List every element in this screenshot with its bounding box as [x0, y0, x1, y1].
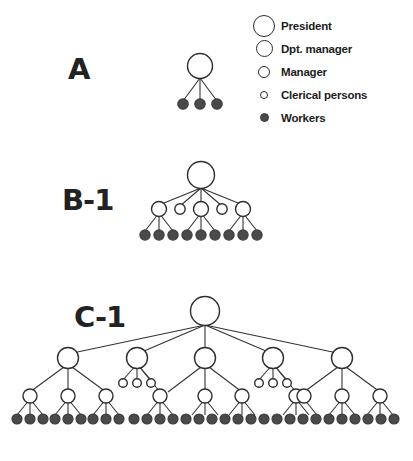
node-worker: [88, 414, 98, 424]
node-dpt-manager: [58, 348, 79, 369]
node-dpt-manager: [127, 348, 148, 369]
node-worker: [142, 414, 152, 424]
node-worker: [363, 414, 373, 424]
node-worker: [259, 414, 269, 424]
node-worker: [182, 230, 192, 240]
node-worker: [195, 99, 205, 109]
legend-label-dpt-manager: Dpt. manager: [281, 43, 352, 55]
node-worker: [298, 414, 308, 424]
node-manager: [61, 389, 75, 403]
legend-item-dpt-manager: Dpt. manager: [247, 37, 413, 60]
node-president: [188, 162, 215, 189]
node-worker: [337, 414, 347, 424]
node-clerical: [175, 204, 185, 214]
node-worker: [101, 414, 111, 424]
diagram-c1-workers: [12, 414, 399, 424]
legend-item-clerical-persons: Clerical persons: [247, 83, 413, 106]
small-open-circle-icon: [247, 66, 281, 78]
node-worker: [246, 414, 256, 424]
node-worker: [38, 414, 48, 424]
node-manager: [153, 389, 167, 403]
node-worker: [272, 414, 282, 424]
diagram-a-edges: [183, 78, 217, 101]
node-worker: [220, 414, 230, 424]
node-worker: [196, 230, 206, 240]
node-clerical: [269, 379, 278, 388]
node-manager: [152, 202, 167, 217]
node-dpt-manager: [332, 348, 353, 369]
node-clerical: [119, 379, 128, 388]
node-worker: [238, 230, 248, 240]
node-worker: [311, 414, 321, 424]
node-worker: [63, 414, 73, 424]
node-clerical: [217, 204, 227, 214]
node-worker: [210, 230, 220, 240]
node-worker: [376, 414, 386, 424]
node-manager: [99, 389, 113, 403]
node-worker: [324, 414, 334, 424]
diagram-a: [160, 48, 240, 118]
node-worker: [154, 230, 164, 240]
node-dpt-manager: [263, 348, 284, 369]
diagram-c1: [8, 292, 408, 434]
diagram-label-a: A: [68, 52, 89, 86]
node-worker: [129, 414, 139, 424]
node-worker: [181, 414, 191, 424]
node-worker: [207, 414, 217, 424]
node-manager: [335, 389, 349, 403]
diagram-canvas: President Dpt. manager Manager Clerical …: [0, 0, 413, 461]
legend-item-manager: Manager: [247, 60, 413, 83]
node-worker: [233, 414, 243, 424]
node-worker: [389, 414, 399, 424]
legend-label-president: President: [281, 20, 332, 32]
node-dpt-manager: [195, 348, 216, 369]
node-clerical: [147, 379, 156, 388]
node-manager: [235, 389, 249, 403]
node-worker: [114, 414, 124, 424]
node-worker: [168, 230, 178, 240]
node-worker: [155, 414, 165, 424]
legend-item-workers: Workers: [247, 106, 413, 129]
node-manager: [236, 202, 251, 217]
node-worker: [178, 99, 188, 109]
node-worker: [212, 99, 222, 109]
node-worker: [50, 414, 60, 424]
node-worker: [25, 414, 35, 424]
node-manager: [373, 389, 387, 403]
legend-label-workers: Workers: [281, 112, 325, 124]
node-manager: [198, 389, 212, 403]
diagram-label-b1: B-1: [62, 183, 113, 217]
legend-label-manager: Manager: [281, 66, 327, 78]
node-clerical: [133, 379, 142, 388]
node-worker: [76, 414, 86, 424]
legend-label-clerical-persons: Clerical persons: [281, 89, 367, 101]
node-worker: [224, 230, 234, 240]
node-worker: [194, 414, 204, 424]
large-open-circle-icon: [247, 15, 281, 37]
legend: President Dpt. manager Manager Clerical …: [247, 14, 413, 129]
node-clerical: [255, 379, 264, 388]
node-president: [188, 54, 213, 79]
node-manager: [297, 389, 311, 403]
node-worker: [140, 230, 150, 240]
diagram-b1: [136, 158, 266, 250]
small-filled-circle-icon: [247, 113, 281, 122]
node-clerical: [283, 379, 292, 388]
legend-item-president: President: [247, 14, 413, 37]
node-worker: [252, 230, 262, 240]
node-worker: [350, 414, 360, 424]
tiny-open-circle-icon: [247, 91, 281, 99]
node-manager: [23, 389, 37, 403]
node-manager: [194, 202, 209, 217]
medium-open-circle-icon: [247, 40, 281, 57]
node-worker: [12, 414, 22, 424]
node-worker: [168, 414, 178, 424]
node-worker: [285, 414, 295, 424]
node-president: [191, 297, 220, 326]
